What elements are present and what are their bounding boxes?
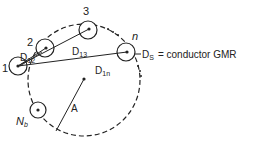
- label-gmr: DS= conductor GMR: [142, 49, 237, 61]
- label-d13: D13: [72, 46, 87, 58]
- label-radius-a: A: [71, 103, 78, 114]
- label-conductor-3: 3: [83, 5, 89, 17]
- label-d12: D12: [20, 52, 35, 64]
- label-d1n: D1n: [95, 65, 110, 77]
- label-conductor-1: 1: [2, 62, 8, 74]
- bundle-diagram: 1 2 3 n Nb D12 D13 D1n A DS= conductor G…: [0, 0, 260, 147]
- radius-line: [56, 79, 84, 131]
- label-conductor-n: n: [132, 30, 138, 42]
- conductor-nb: [30, 102, 46, 118]
- label-conductor-nb: Nb: [16, 115, 28, 128]
- ellipsis-dots-top: [107, 28, 119, 36]
- label-conductor-2: 2: [27, 36, 33, 48]
